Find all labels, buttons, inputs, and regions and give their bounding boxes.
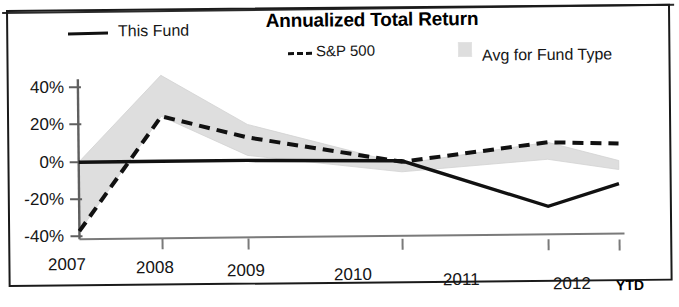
y-axis-label-40: 40% [12, 78, 64, 99]
x-axis-label-2010: 2010 [334, 265, 372, 285]
y-axis-line [78, 79, 80, 239]
chart-title: Annualized Total Return [222, 7, 522, 32]
x-axis-label-2009: 2009 [227, 261, 265, 281]
legend-label-this-fund: This Fund [118, 22, 189, 41]
legend-label-sp500: S&P 500 [316, 42, 375, 60]
x-axis-label-ytd: YTD [616, 277, 644, 293]
x-axis-label-2011: 2011 [443, 270, 480, 290]
x-axis-label-2007: 2007 [48, 255, 86, 275]
x-axis-label-2012: 2012 [553, 274, 591, 294]
sp500-legend-swatch [288, 52, 312, 55]
avg-fund-type-band [78, 71, 620, 232]
x-axis-label-2008: 2008 [136, 258, 174, 278]
screenshot-root: Annualized Total Return This Fund S&P 50… [0, 0, 679, 307]
annualized-total-return-chart: Annualized Total Return This Fund S&P 50… [0, 0, 679, 307]
y-axis-label-neg20: -20% [6, 190, 64, 211]
legend-label-avg-fund-type: Avg for Fund Type [482, 45, 612, 64]
y-axis-label-neg40: -40% [6, 227, 64, 248]
sp500-series-line [78, 112, 619, 232]
y-axis-label-20: 20% [12, 115, 64, 136]
avg-fund-type-legend-swatch [458, 42, 472, 57]
x-axis-line [80, 233, 625, 239]
y-axis-label-0: 0% [12, 153, 64, 174]
